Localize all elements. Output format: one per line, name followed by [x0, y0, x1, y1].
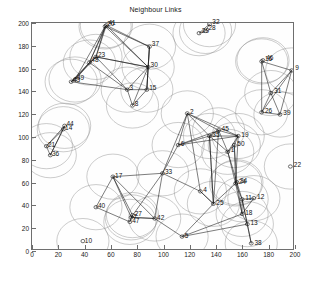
x-tick-mark: [242, 245, 243, 249]
node-label: 36: [52, 151, 59, 158]
node-label: 38: [254, 240, 261, 247]
y-tick-label: 20: [22, 225, 29, 232]
x-tick-label: 40: [81, 251, 88, 258]
x-tick-mark: [269, 245, 270, 249]
node-label: 50: [237, 141, 244, 148]
x-tick-mark: [85, 245, 86, 249]
neighbour-link: [89, 63, 127, 90]
y-tick-mark: [32, 114, 36, 115]
x-tick-label: 60: [107, 251, 114, 258]
y-tick-mark: [32, 69, 36, 70]
y-tick-mark: [32, 228, 36, 229]
y-tick-label: 100: [18, 134, 29, 141]
node-label: 13: [250, 220, 257, 227]
neighbour-link: [271, 93, 280, 114]
node-label: 1: [231, 147, 235, 154]
node-label: 22: [294, 162, 301, 169]
neighbour-link: [209, 136, 213, 204]
node-markers-group: [44, 23, 293, 245]
node-label: 39: [283, 110, 290, 117]
x-tick-mark: [32, 245, 33, 249]
node-label: 10: [85, 238, 92, 245]
y-tick-mark: [32, 46, 36, 47]
node-label: 37: [152, 41, 159, 48]
y-tick-mark: [32, 205, 36, 206]
node-label: 19: [241, 132, 248, 139]
y-tick-label: 160: [18, 65, 29, 72]
node-label: 41: [108, 20, 115, 27]
node-label: 5: [185, 233, 189, 240]
chart-title: Neighbour Links: [0, 6, 311, 13]
node-label: 11: [245, 195, 252, 202]
x-tick-mark: [58, 245, 59, 249]
node-label: 31: [274, 88, 281, 95]
node-label: 30: [151, 62, 158, 69]
y-tick-label: 80: [22, 156, 29, 163]
x-tick-mark: [137, 245, 138, 249]
x-tick-mark: [190, 245, 191, 249]
node-label: 33: [165, 169, 172, 176]
node-label: 28: [208, 25, 215, 32]
y-tick-label: 140: [18, 88, 29, 95]
neighbour-link: [127, 90, 132, 106]
node-label: 35: [212, 132, 219, 139]
node-label: 40: [98, 203, 105, 210]
x-tick-label: 160: [237, 251, 248, 258]
node-label: 21: [48, 142, 55, 149]
neighbour-link: [106, 25, 148, 67]
node-label: 44: [66, 121, 73, 128]
node-label: 47: [132, 218, 139, 225]
figure-root: Neighbour Links 123456789101112131415161…: [0, 0, 311, 281]
node-label: 4: [203, 187, 207, 194]
node-label: 32: [212, 19, 219, 26]
node-label: 46: [266, 55, 273, 62]
x-tick-label: 180: [263, 251, 274, 258]
node-label: 2: [190, 109, 194, 116]
plot-area: 1234567891011121314151617181920212223242…: [31, 22, 294, 250]
node-label: 34: [240, 178, 247, 185]
y-tick-label: 60: [22, 179, 29, 186]
neighbour-link: [237, 182, 242, 214]
x-tick-mark: [111, 245, 112, 249]
node-label: 6: [181, 141, 185, 148]
x-tick-label: 80: [134, 251, 141, 258]
node-marker: [288, 165, 292, 168]
y-tick-label: 180: [18, 42, 29, 49]
x-tick-label: 100: [158, 251, 169, 258]
node-label: 15: [149, 85, 156, 92]
neighbour-links-group: [46, 24, 291, 243]
node-label: 45: [222, 126, 229, 133]
y-tick-label: 200: [18, 20, 29, 27]
node-label: 23: [98, 52, 105, 59]
y-tick-label: 40: [22, 202, 29, 209]
neighbour-link: [187, 113, 200, 191]
node-label: 49: [77, 75, 84, 82]
x-tick-mark: [216, 245, 217, 249]
neighbour-link: [106, 25, 149, 46]
y-tick-mark: [32, 91, 36, 92]
node-label: 3: [129, 85, 133, 92]
node-label: 29: [202, 28, 209, 35]
y-tick-label: 0: [25, 248, 29, 255]
x-tick-label: 120: [184, 251, 195, 258]
y-tick-mark: [32, 23, 36, 24]
x-tick-label: 20: [55, 251, 62, 258]
neighbour-link: [113, 177, 133, 215]
y-tick-label: 120: [18, 111, 29, 118]
node-label: 18: [245, 210, 252, 217]
y-tick-mark: [32, 160, 36, 161]
coverage-circle: [173, 23, 225, 56]
x-tick-label: 0: [30, 251, 34, 258]
x-tick-label: 140: [211, 251, 222, 258]
x-tick-mark: [295, 245, 296, 249]
node-label: 12: [257, 194, 264, 201]
neighbour-link: [182, 214, 242, 237]
coverage-circle: [57, 218, 109, 249]
node-label: 26: [265, 108, 272, 115]
node-label: 48: [91, 57, 98, 64]
neighbour-link: [209, 136, 227, 152]
node-label: 17: [115, 173, 122, 180]
node-label: 8: [135, 101, 139, 108]
x-tick-mark: [164, 245, 165, 249]
y-tick-mark: [32, 183, 36, 184]
